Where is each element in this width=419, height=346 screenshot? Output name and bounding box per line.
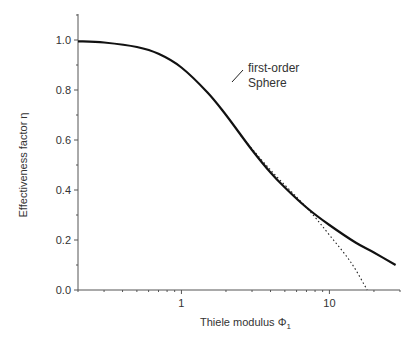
x-axis-title: Thiele modulus Φ1 (200, 316, 291, 331)
y-tick-label: 0.6 (56, 134, 71, 146)
annotation-line2: Sphere (248, 76, 287, 90)
y-tick-label: 0.0 (56, 284, 71, 296)
annotation-line1: first-order (248, 61, 299, 75)
x-tick-label: 1 (178, 297, 184, 309)
y-tick-label: 0.4 (56, 184, 71, 196)
x-tick-label: 10 (323, 297, 335, 309)
y-tick-label: 1.0 (56, 34, 71, 46)
axes (74, 14, 400, 294)
sphere-curve (78, 41, 396, 265)
y-tick-labels: 0.00.20.40.60.81.0 (56, 34, 71, 296)
effectiveness-factor-chart: 0.00.20.40.60.81.0 110 first-order Spher… (0, 0, 419, 346)
annotation-leader-line (232, 70, 243, 82)
y-axis-title: Effectiveness factor η (17, 113, 29, 218)
x-tick-labels: 110 (178, 297, 335, 309)
y-tick-label: 0.2 (56, 234, 71, 246)
y-tick-label: 0.8 (56, 84, 71, 96)
